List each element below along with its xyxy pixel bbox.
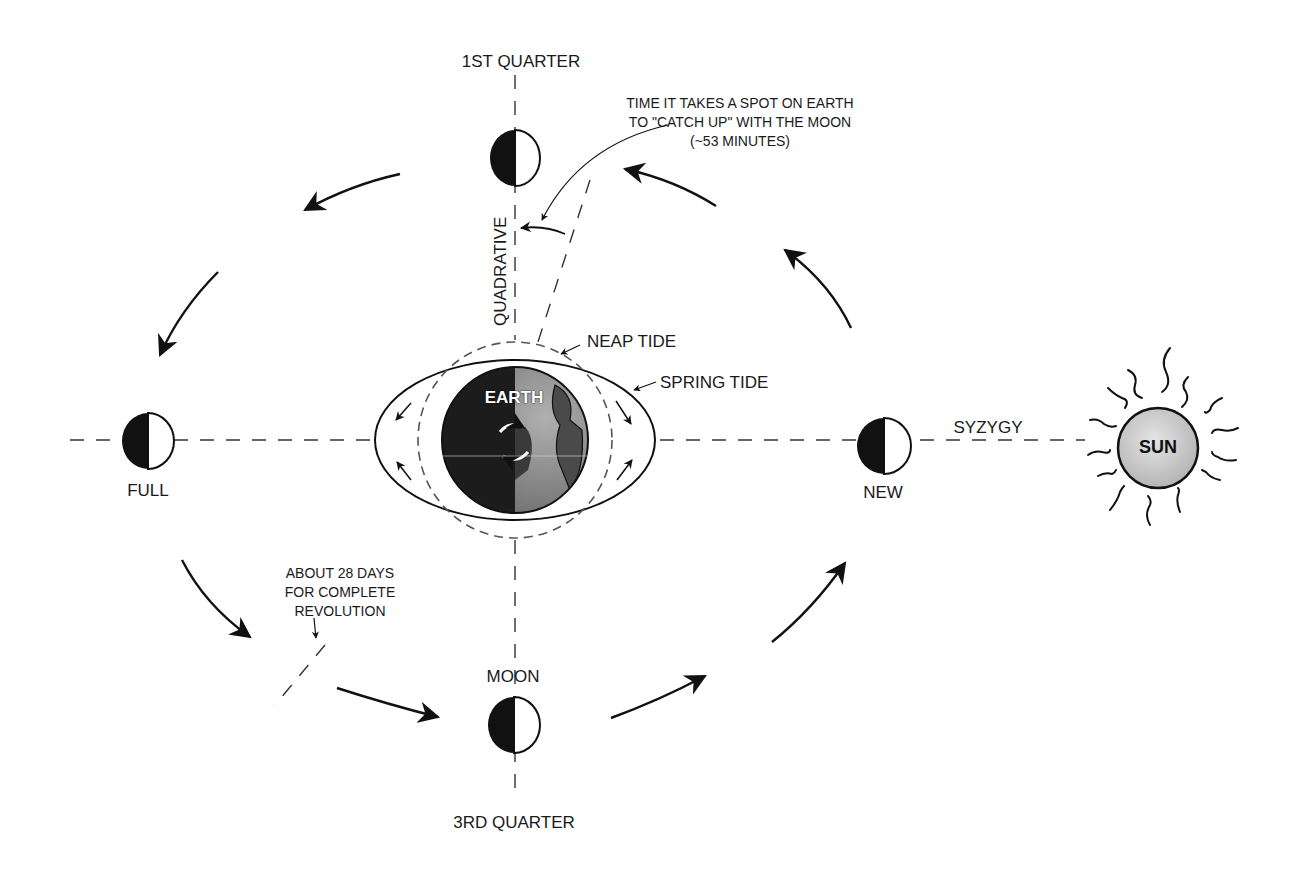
spring-tide-label: SPRING TIDE [660,373,768,393]
orbit-arrow-top-right [625,169,716,206]
moon-label: MOON [487,667,540,687]
orbit-arrow-right-upper [785,250,851,328]
revolution-pointer [314,618,316,638]
orbit-arrow-left-lower [182,560,250,637]
orbit-arrow-bottom-left [337,688,438,717]
revolution-line-3: REVOLUTION [285,602,395,621]
catch-up-sight-line [537,180,590,345]
revolution-line-2: FOR COMPLETE [285,583,395,602]
full-moon-label: FULL [127,481,169,501]
moon-full [122,413,174,469]
catch-up-line-1: TIME IT TAKES A SPOT ON EARTH [626,94,853,113]
catch-up-line-3: (~53 MINUTES) [626,132,853,151]
quadrative-short-arrow [521,227,565,234]
orbit-arrow-left-upper [160,272,218,355]
third-quarter-label: 3RD QUARTER [453,813,575,833]
new-moon-label: NEW [863,483,903,503]
catch-up-annotation: TIME IT TAKES A SPOT ON EARTH TO "CATCH … [626,94,853,151]
neap-tide-label: NEAP TIDE [587,332,676,352]
revolution-line-1: ABOUT 28 DAYS [285,564,395,583]
revolution-annotation: ABOUT 28 DAYS FOR COMPLETE REVOLUTION [285,564,395,621]
orbit-arrow-bottom-right [611,676,705,718]
sun-label: SUN [1139,437,1177,457]
orbit-arrow-right-lower [772,563,845,642]
orbit-arrow-top-left [305,174,400,210]
neap-tide-pointer [561,345,580,354]
revolution-marker-line [275,645,325,705]
first-quarter-label: 1ST QUARTER [462,52,580,72]
quadrative-label: QUADRATIVE [491,217,511,326]
moon-third-quarter [488,697,540,753]
moon-new [857,418,911,474]
earth-label: EARTH [485,388,544,408]
moon-first-quarter [490,130,540,186]
syzygy-label: SYZYGY [954,418,1023,438]
catch-up-line-2: TO "CATCH UP" WITH THE MOON [626,113,853,132]
spring-tide-pointer [634,382,656,390]
